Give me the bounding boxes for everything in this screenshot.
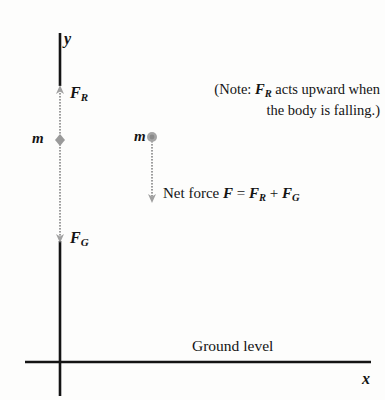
note-fr-symbol: F [255,81,265,97]
force-fr-label: FR [70,84,88,103]
force-fg-symbol: F [70,229,81,246]
force-fr-shaft [59,88,61,142]
net-force-term2-symbol: F [282,185,292,201]
x-axis-label: x [362,370,370,388]
note-line-1-rest: acts upward when [272,81,380,97]
force-fg-label: FG [70,229,89,248]
net-force-term2-subscript: G [292,192,300,203]
mass-marker-left [55,134,65,146]
note-line-2: the body is falling.) [266,102,380,118]
note-annotation: (Note: FR acts upward when the body is f… [135,80,380,120]
net-force-plus: + [266,185,282,201]
note-fr-subscript: R [265,88,272,99]
net-force-symbol: F [223,185,233,201]
ground-level-label: Ground level [192,337,273,354]
mass-label-left: m [32,130,44,147]
net-force-term1-subscript: R [259,192,266,203]
physics-free-body-diagram: y x m m FR FG (Note: FR acts upward when… [0,0,385,400]
force-fg-shaft [59,140,61,238]
note-open-paren: (Note: [214,81,255,97]
force-fg-subscript: G [81,236,89,248]
y-axis-label: y [64,30,71,48]
net-force-term1-symbol: F [249,185,259,201]
mass-label-right: m [134,128,146,145]
net-force-equals: = [233,185,249,201]
note-line-1: (Note: FR acts upward when [214,81,380,97]
net-force-prefix: Net force [163,185,223,201]
force-fr-subscript: R [81,91,88,103]
force-fr-symbol: F [70,84,81,101]
mass-marker-right-core [150,135,155,140]
net-force-shaft [151,140,153,198]
net-force-equation: Net force F = FR + FG [163,185,300,204]
